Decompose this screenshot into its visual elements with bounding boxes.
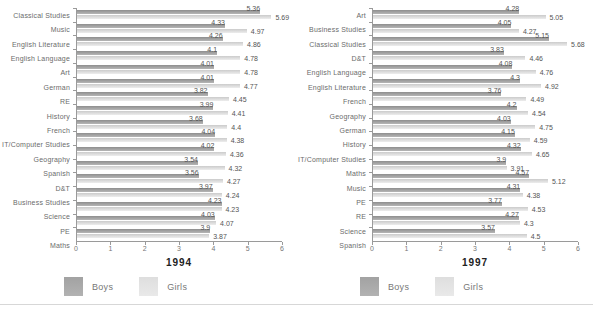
boys-bar xyxy=(373,120,511,124)
boys-value-label: 4.33 xyxy=(211,19,225,26)
boys-value-label: 4.03 xyxy=(497,115,511,122)
boys-value-label: 5.15 xyxy=(535,32,549,39)
girls-value-label: 4.53 xyxy=(532,206,546,213)
legend-boys-swatch xyxy=(64,277,83,296)
boys-bar xyxy=(373,37,549,41)
category-label: English Language xyxy=(296,66,372,80)
category-label: German xyxy=(296,123,372,137)
boys-value-label: 4.57 xyxy=(516,169,530,176)
boys-value-label: 4.1 xyxy=(207,46,217,53)
x-axis-tick-label: 4 xyxy=(211,245,215,252)
girls-value-label: 4.38 xyxy=(231,137,245,144)
boys-value-label: 4.03 xyxy=(201,211,215,218)
girls-value-label: 4.36 xyxy=(230,151,244,158)
girls-value-label: 4.59 xyxy=(534,137,548,144)
girls-bar xyxy=(77,56,240,60)
bar-row: 4.014.77 xyxy=(77,77,282,91)
boys-value-label: 4.15 xyxy=(501,128,515,135)
girls-value-label: 5.69 xyxy=(275,14,289,21)
category-label: History xyxy=(0,109,76,123)
category-label: French xyxy=(0,123,76,137)
girls-value-label: 4.4 xyxy=(231,124,241,131)
chart-1997-plot: ArtBusiness StudiesClassical StudiesD&TE… xyxy=(296,8,578,253)
boys-bar xyxy=(77,229,210,233)
legend-girls-swatch xyxy=(435,277,454,296)
boys-bar xyxy=(373,106,517,110)
x-axis-tick-label: 5 xyxy=(542,245,546,252)
girls-value-label: 4.27 xyxy=(227,178,241,185)
category-label: Art xyxy=(296,8,372,22)
category-label: English Literature xyxy=(296,80,372,94)
chart-1997-category-labels: ArtBusiness StudiesClassical StudiesD&TE… xyxy=(296,8,372,253)
bar-row: 4.14.78 xyxy=(77,49,282,63)
boys-bar xyxy=(77,51,217,55)
boys-value-label: 4.01 xyxy=(200,60,214,67)
boys-value-label: 5.36 xyxy=(247,5,261,12)
chart-1997-plot-area: 4.285.054.054.275.155.683.834.464.084.76… xyxy=(372,8,578,253)
girls-value-label: 4.32 xyxy=(229,165,243,172)
category-label: Classical Studies xyxy=(296,37,372,51)
girls-value-label: 4.23 xyxy=(226,206,240,213)
girls-bar xyxy=(373,234,527,238)
boys-value-label: 4.23 xyxy=(208,197,222,204)
category-label: PE xyxy=(0,224,76,238)
boys-value-label: 3.54 xyxy=(184,156,198,163)
boys-value-label: 3.76 xyxy=(488,87,502,94)
girls-bar xyxy=(77,193,222,197)
girls-value-label: 4.45 xyxy=(233,96,247,103)
bar-row: 4.314.38 xyxy=(373,186,578,200)
bar-row: 4.034.07 xyxy=(77,214,282,228)
boys-bar xyxy=(373,10,519,14)
bar-row: 4.34.92 xyxy=(373,77,578,91)
legend-girls-swatch xyxy=(139,277,158,296)
x-axis-tick-label: 5 xyxy=(246,245,250,252)
boys-bar xyxy=(77,147,214,151)
category-label: French xyxy=(296,94,372,108)
girls-bar xyxy=(373,84,541,88)
girls-value-label: 4.92 xyxy=(545,83,559,90)
boys-value-label: 4.32 xyxy=(507,142,521,149)
boys-bar xyxy=(373,133,515,137)
bar-row: 4.274.3 xyxy=(373,214,578,228)
girls-bar xyxy=(77,70,240,74)
girls-value-label: 4.54 xyxy=(532,110,546,117)
girls-value-label: 4.5 xyxy=(531,233,541,240)
chart-1997-title: 1997 xyxy=(372,257,578,268)
category-label: Music xyxy=(0,22,76,36)
girls-bar xyxy=(373,166,507,170)
girls-bar xyxy=(373,97,526,101)
girls-value-label: 4.65 xyxy=(536,151,550,158)
boys-bar xyxy=(77,133,215,137)
category-label: IT/Computer Studies xyxy=(0,138,76,152)
bar-row: 4.575.12 xyxy=(373,172,578,186)
boys-bar xyxy=(77,24,225,28)
bar-row: 4.285.05 xyxy=(373,8,578,22)
boys-value-label: 4.02 xyxy=(201,142,215,149)
category-label: Science xyxy=(296,224,372,238)
girls-value-label: 4.3 xyxy=(524,220,534,227)
girls-value-label: 4.77 xyxy=(244,83,258,90)
boys-value-label: 4.05 xyxy=(498,19,512,26)
boys-bar xyxy=(373,65,512,69)
boys-bar xyxy=(77,188,213,192)
boys-bar xyxy=(77,92,208,96)
boys-value-label: 4.26 xyxy=(209,32,223,39)
girls-bar xyxy=(77,152,226,156)
bar-row: 3.764.49 xyxy=(373,90,578,104)
category-label: IT/Computer Studies xyxy=(296,152,372,166)
girls-value-label: 4.49 xyxy=(530,96,544,103)
boys-value-label: 4.01 xyxy=(200,74,214,81)
bar-row: 5.155.68 xyxy=(373,35,578,49)
category-label: RE xyxy=(0,94,76,108)
category-label: Spanish xyxy=(0,166,76,180)
boys-value-label: 4.3 xyxy=(510,74,520,81)
boys-value-label: 4.31 xyxy=(507,183,521,190)
chart-1997-legend: Boys Girls xyxy=(360,277,578,296)
bar-row: 3.93.91 xyxy=(373,159,578,173)
girls-bar xyxy=(77,111,228,115)
category-label: Art xyxy=(0,66,76,80)
boys-value-label: 3.77 xyxy=(488,197,502,204)
category-label: English Language xyxy=(0,51,76,65)
boys-bar xyxy=(77,120,203,124)
boys-value-label: 3.83 xyxy=(490,46,504,53)
